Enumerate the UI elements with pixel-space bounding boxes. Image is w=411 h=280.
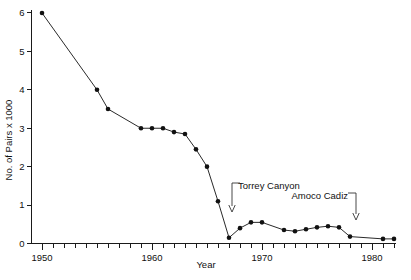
y-axis-ticks — [27, 13, 32, 244]
annotation-label-amoco-cadiz: Amoco Cadiz — [292, 190, 349, 201]
data-point — [40, 11, 45, 16]
data-point — [161, 126, 166, 131]
annotation-leader-amoco-cadiz — [348, 193, 356, 214]
x-tick-label: 1980 — [361, 252, 382, 263]
y-tick-label: 0 — [19, 238, 24, 249]
annotation-arrowhead-torrey-canyon — [229, 205, 235, 212]
x-tick-label: 1950 — [31, 252, 52, 263]
data-point — [95, 88, 100, 93]
data-point — [392, 237, 397, 242]
data-point — [238, 226, 243, 231]
y-tick-label: 6 — [19, 7, 24, 18]
y-tick-label: 3 — [19, 123, 24, 134]
x-axis-ticks — [42, 244, 394, 251]
annotations: Torrey CanyonAmoco Cadiz — [229, 180, 359, 220]
y-tick-label: 1 — [19, 199, 24, 210]
x-axis-title: Year — [196, 259, 215, 270]
y-axis-tick-labels: 0123456 — [19, 7, 24, 249]
annotation-label-torrey-canyon: Torrey Canyon — [238, 180, 300, 191]
axes — [32, 10, 397, 244]
data-point — [139, 126, 144, 131]
data-point — [282, 228, 287, 233]
data-point — [106, 107, 111, 112]
data-series — [40, 11, 397, 242]
data-point — [216, 199, 221, 204]
data-point — [150, 126, 155, 131]
data-point — [183, 132, 188, 137]
data-point — [315, 225, 320, 230]
data-point — [172, 130, 177, 135]
annotation-arrowhead-amoco-cadiz — [353, 213, 359, 220]
chart-page: 0123456 1950196019701980 Torrey CanyonAm… — [0, 0, 411, 280]
x-tick-label: 1970 — [251, 252, 272, 263]
data-point — [293, 229, 298, 234]
series-line — [42, 13, 394, 239]
data-point — [227, 235, 232, 240]
data-point — [348, 234, 353, 239]
data-point — [260, 220, 265, 225]
data-point — [249, 220, 254, 225]
data-point — [337, 225, 342, 230]
data-point — [194, 147, 199, 152]
y-axis-title: No. of Pairs x 1000 — [3, 100, 14, 181]
y-tick-label: 5 — [19, 46, 24, 57]
y-tick-label: 2 — [19, 161, 24, 172]
data-point — [205, 164, 210, 169]
x-tick-label: 1960 — [141, 252, 162, 263]
data-point — [326, 224, 331, 229]
data-point — [381, 237, 386, 242]
y-tick-label: 4 — [19, 84, 24, 95]
line-chart: 0123456 1950196019701980 Torrey CanyonAm… — [0, 0, 411, 280]
data-point — [304, 227, 309, 232]
